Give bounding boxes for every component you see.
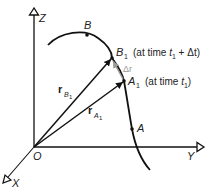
y-axis-label: Y xyxy=(187,150,195,162)
a1-subscript: 1 xyxy=(136,82,140,89)
z-axis-label: Z xyxy=(38,12,47,24)
b1-note-prefix: (at time xyxy=(133,47,169,58)
b1-subscript: 1 xyxy=(124,53,128,60)
point-a1-label: A 1 (at time t1) xyxy=(127,75,191,89)
vector-r-a1 xyxy=(34,82,123,147)
x-axis-arrowhead-icon xyxy=(3,175,11,183)
point-b1-label: B 1 (at time t1 + Δt) xyxy=(116,46,200,60)
b1-letter: B xyxy=(116,46,123,58)
r-a1-label: r A 1 xyxy=(88,104,103,121)
point-b xyxy=(85,33,89,37)
a1-time-note: (at time t1) xyxy=(145,76,191,89)
point-b-label: B xyxy=(84,19,91,31)
delta-r-label: Δr xyxy=(123,64,132,74)
origin-label: O xyxy=(33,150,42,162)
y-axis-arrowhead-icon xyxy=(197,143,204,152)
point-a-label: A xyxy=(136,122,144,134)
a1-letter: A xyxy=(127,75,135,87)
a1-note-suffix: ) xyxy=(188,76,191,87)
r-a1-letter: r xyxy=(88,104,93,116)
vector-r-b1 xyxy=(34,59,111,147)
r-a1-sub-num: 1 xyxy=(99,115,103,121)
trajectory-diagram: Z Y X O B B 1 (at time t1 + Δt) Δr A 1 (… xyxy=(0,0,222,189)
vector-delta-r xyxy=(113,61,123,79)
z-axis-arrowhead-icon xyxy=(30,8,39,15)
b1-note-suffix: + Δt) xyxy=(176,47,200,58)
y-axis xyxy=(34,143,204,152)
point-a xyxy=(130,127,134,131)
z-axis xyxy=(30,8,39,147)
r-b1-sub-num: 1 xyxy=(69,94,73,100)
x-axis-label: X xyxy=(11,177,20,189)
b1-time-note: (at time t1 + Δt) xyxy=(133,47,200,60)
r-b1-label: r B 1 xyxy=(58,83,73,100)
a1-note-prefix: (at time xyxy=(145,76,181,87)
r-b1-letter: r xyxy=(58,83,63,95)
